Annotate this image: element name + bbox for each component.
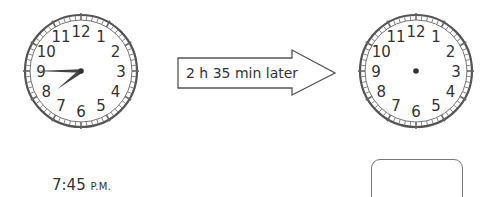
clock-number: 5: [431, 97, 441, 115]
clock-number: 3: [116, 63, 126, 81]
start-time-value: 7:45: [52, 176, 86, 194]
end-clock[interactable]: 121234567891011: [358, 13, 474, 129]
clock-number: 12: [71, 23, 90, 41]
clock-number: 5: [96, 97, 106, 115]
end-time-answer-box[interactable]: [371, 159, 463, 197]
arrow-label: 2 h 35 min later: [186, 65, 298, 81]
clock-center-dot: [413, 68, 419, 74]
clock-number: 9: [371, 63, 381, 81]
clock-number: 2: [111, 43, 121, 61]
clock-number: 11: [386, 28, 405, 46]
clock-number: 8: [42, 83, 52, 101]
clock-number: 9: [36, 63, 46, 81]
clock-number: 1: [431, 28, 441, 46]
elapsed-time-arrow: 2 h 35 min later: [178, 50, 335, 95]
clock-number: 7: [391, 97, 401, 115]
start-time-label: 7:45 P.M.: [52, 178, 111, 193]
clock-number: 8: [377, 83, 387, 101]
clock-number: 6: [411, 103, 421, 121]
clock-number: 2: [446, 43, 456, 61]
start-clock: 121234567891011: [23, 13, 139, 129]
clock-number: 6: [76, 103, 86, 121]
clock-number: 7: [56, 97, 66, 115]
clock-number: 4: [111, 83, 121, 101]
clock-number: 1: [96, 28, 106, 46]
clock-center-dot: [78, 68, 84, 74]
clock-number: 4: [446, 83, 456, 101]
clock-number: 12: [406, 23, 425, 41]
clock-number: 11: [51, 28, 70, 46]
start-time-period: P.M.: [90, 181, 111, 192]
clock-number: 3: [451, 63, 461, 81]
